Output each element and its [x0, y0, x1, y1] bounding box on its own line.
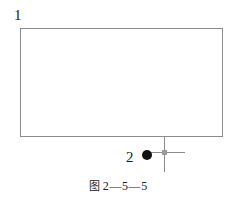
support-point-marker — [142, 150, 152, 160]
cross-center-hub — [162, 150, 167, 155]
callout-label-1: 1 — [14, 8, 22, 23]
figure-caption: 图2—5—5 — [0, 177, 237, 194]
figure-caption-prefix: 图 — [89, 180, 103, 193]
callout-label-2: 2 — [126, 150, 134, 165]
figure-container: 1 2 图2—5—5 — [0, 0, 237, 202]
figure-caption-number: 2—5—5 — [103, 179, 148, 193]
rectangle-body — [21, 29, 223, 137]
figure-drawing-canvas — [0, 0, 237, 202]
